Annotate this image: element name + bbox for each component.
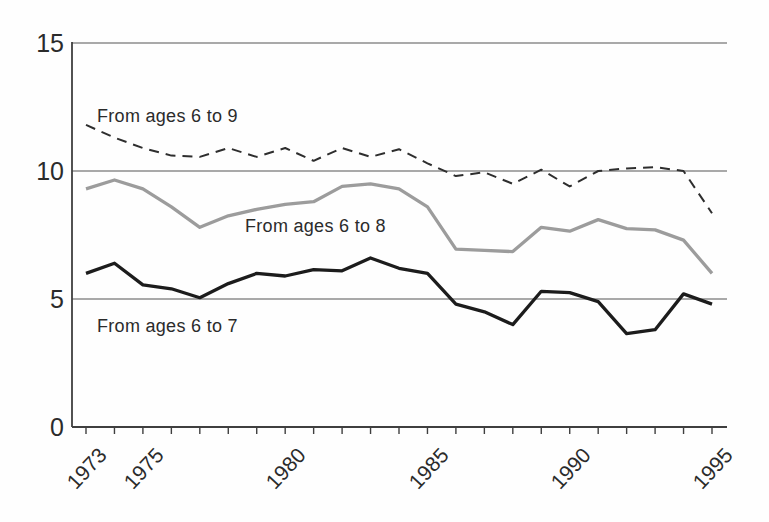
y-tick-label-5: 5 xyxy=(50,287,64,312)
series-label-ages-6-to-9: From ages 6 to 9 xyxy=(97,106,238,126)
series-label-ages-6-to-8: From ages 6 to 8 xyxy=(245,216,386,236)
series-line-from-ages-6-to-9 xyxy=(86,125,712,213)
plot-svg xyxy=(0,0,769,522)
y-tick-label-0: 0 xyxy=(50,415,64,440)
y-tick-label-10: 10 xyxy=(36,159,64,184)
y-tick-label-15: 15 xyxy=(36,31,64,56)
chart-figure: 15 10 5 0 From ages 6 to 9 From ages 6 t… xyxy=(0,0,769,522)
series-label-ages-6-to-7: From ages 6 to 7 xyxy=(97,316,238,336)
series-line-from-ages-6-to-8 xyxy=(86,180,712,273)
